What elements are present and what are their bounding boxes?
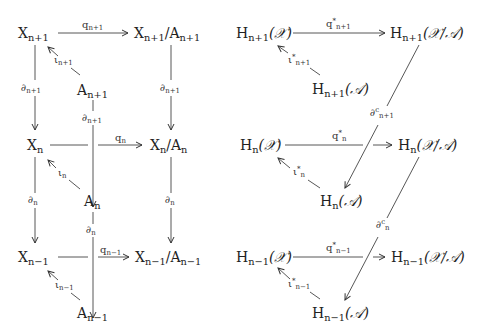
label-sub: n+1 [88,24,103,32]
label-qs-n: q*n [332,130,346,143]
node-base: A [84,193,94,209]
node-Xq-nm1: Xn−1/An−1 [135,250,201,267]
label-sub: n [170,199,175,207]
label-iota-np1: ιn+1 [54,55,73,67]
node-sub: n [94,200,100,211]
node-base: H [240,137,252,153]
node-mid: /A [166,137,181,153]
arrow-is-np1 [278,46,288,53]
label-d-np1-left: ∂n+1 [21,83,41,95]
node-base: X [135,249,145,265]
node-base: H [390,25,402,41]
label-sub: n−1 [106,249,121,257]
node-A-nm1: An−1 [77,306,108,323]
label-qs-np1: q*n+1 [326,18,351,31]
node-X-n: Xn [27,138,43,155]
label-sub: n+1 [87,117,102,125]
label-sub: n+1 [165,87,180,95]
label-sub: n [33,199,38,207]
node-base: H [236,249,248,265]
node-base: H [391,249,403,265]
arrow-dc-np1 [345,125,378,188]
node-sub: n [37,144,43,155]
commutative-diagram: Xn+1 Xn+1/An+1 An+1 Xn Xn/An An Xn−1 Xn−… [0,0,479,335]
node-base: H [312,81,324,97]
node-base: X [27,137,37,153]
node-H-A-n: Hn(𝒜) [320,194,362,211]
node-base: H [236,25,248,41]
label-sub: n−1 [295,283,310,291]
label-sub: n+1 [295,59,310,67]
node-base: H [398,137,410,153]
node-sub: n+1 [87,89,108,100]
node-Xq-n: Xn/An [150,138,187,155]
label-sub: n [300,171,305,179]
node-arg: (𝒜) [339,193,363,209]
label-qs-nm1: q*n−1 [326,242,351,255]
label-sub: n+1 [336,23,351,31]
label-q-nm1: qn−1 [100,245,121,257]
arrow-iota-n [48,160,56,168]
node-base: X [18,25,28,41]
node-arg: (𝒳) [269,249,292,265]
label-q-np1: qn+1 [82,20,103,32]
node-sub: n−1 [28,256,49,267]
node-A-np1: An+1 [77,83,108,100]
label-d-n-right: ∂n [165,195,175,207]
node-base: H [312,305,324,321]
node-sub: n+1 [324,88,345,99]
label-sub: n+1 [26,87,41,95]
label-sub: n [385,224,390,232]
node-X-np1: Xn+1 [18,26,49,43]
node-H-XA-np1: Hn+1(𝒳/𝒜) [390,26,464,43]
node-sub: n+1 [28,32,49,43]
label-sub: n+1 [379,112,394,120]
node-base: X [134,25,144,41]
node-base: A [77,305,87,321]
label-sub: n+1 [58,59,73,67]
node-arg: (𝒳) [259,137,282,153]
node-sub: n−1 [87,312,108,323]
node-sub: n−1 [248,256,269,267]
node-H-XA-nm1: Hn−1(𝒳/𝒜) [391,250,465,267]
node-H-X-nm1: Hn−1(𝒳) [236,250,292,267]
label-d-n-left: ∂n [28,195,38,207]
label-sub: n [62,172,67,180]
node-sub2: n−1 [181,256,202,267]
arrow-is-n [278,158,290,168]
node-arg: (𝒜) [345,81,369,97]
node-sub: n+1 [402,32,423,43]
label-sub: n [342,135,347,143]
node-H-X-np1: Hn+1(𝒳) [236,26,292,43]
label-d-np1-mid: ∂n+1 [82,113,102,125]
label-q-n: qn [115,133,126,145]
label-is-nm1: ι*n−1 [288,278,310,291]
node-H-XA-n: Hn(𝒳/𝒜) [398,138,457,155]
node-Xq-np1: Xn+1/An+1 [134,26,200,43]
node-base: X [18,249,28,265]
label-iota-nm1: ιn−1 [55,280,74,292]
node-sub: n−1 [324,312,345,323]
label-dc-np1: ∂cn+1 [370,107,394,120]
label-sub: n−1 [336,247,351,255]
node-base: X [150,137,160,153]
node-base: H [320,193,332,209]
label-dc-n: ∂cn [376,219,390,232]
node-sub: n+1 [248,32,269,43]
node-arg: (𝒳) [269,25,292,41]
node-mid: /A [165,25,180,41]
label-is-np1: ι*n+1 [288,54,310,67]
label-d-n-mid: ∂n [86,225,96,237]
node-H-A-nm1: Hn−1(𝒜) [312,306,369,323]
label-iota-n: ιn [58,168,66,180]
node-A-n: An [84,194,100,211]
node-base: A [77,82,87,98]
label-sub: n [91,229,96,237]
label-sub: n−1 [59,284,74,292]
node-arg: (𝒳/𝒜) [423,25,464,41]
node-sub2: n+1 [180,32,201,43]
node-sub: n−1 [145,256,166,267]
node-arg: (𝒳/𝒜) [424,249,465,265]
node-X-nm1: Xn−1 [18,250,49,267]
label-d-np1-right: ∂n+1 [160,83,180,95]
